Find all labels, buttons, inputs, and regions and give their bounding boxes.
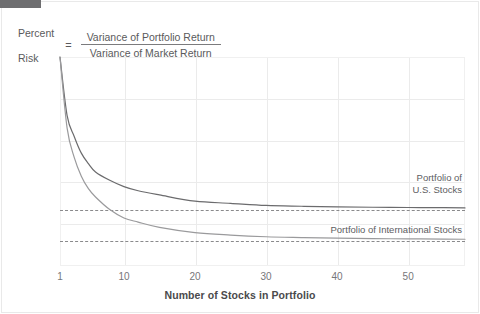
series-label-1: Portfolio of U.S. Stocks <box>412 172 462 195</box>
series-label-2: Portfolio of International Stocks <box>331 224 463 236</box>
chart-page: Percent Risk = Variance of Portfolio Ret… <box>0 0 480 314</box>
curve-series-2 <box>60 57 465 239</box>
x-axis-title: Number of Stocks in Portfolio <box>0 289 480 301</box>
curve-series-1 <box>60 57 465 208</box>
curve-layer <box>0 0 480 314</box>
